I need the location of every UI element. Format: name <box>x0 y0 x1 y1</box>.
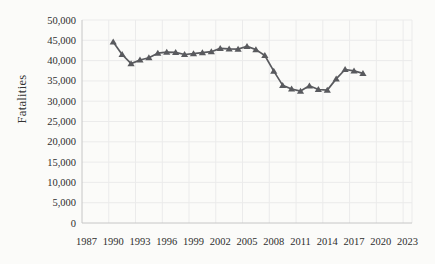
y-tick-label: 50,000 <box>47 15 76 26</box>
y-tick-label: 45,000 <box>47 35 76 46</box>
y-axis-title: Fatalities <box>15 75 30 124</box>
y-tick-label: 5,000 <box>52 197 76 208</box>
x-tick-label: 2017 <box>344 236 365 247</box>
y-tick-label: 20,000 <box>47 136 76 147</box>
y-tick-label: 10,000 <box>47 177 76 188</box>
series-marker-triangle <box>306 82 313 88</box>
x-tick-label: 2005 <box>237 236 258 247</box>
y-tick-label: 40,000 <box>47 55 76 66</box>
x-tick-label: 1990 <box>103 236 124 247</box>
x-tick-label: 1999 <box>183 236 204 247</box>
series-marker-triangle <box>110 39 117 45</box>
x-tick-label: 1996 <box>156 236 177 247</box>
x-tick-label: 2002 <box>210 236 231 247</box>
x-tick-label: 2008 <box>263 236 284 247</box>
x-tick-label: 2020 <box>370 236 391 247</box>
y-tick-label: 35,000 <box>47 75 76 86</box>
x-tick-label: 2023 <box>397 236 418 247</box>
fatalities-line-chart: Fatalities 05,00010,00015,00020,00025,00… <box>0 0 435 248</box>
x-tick-label: 2014 <box>317 236 339 247</box>
y-tick-label: 15,000 <box>47 157 76 168</box>
x-tick-label: 2011 <box>290 236 311 247</box>
x-tick-label: 1993 <box>129 236 150 247</box>
x-tick-label: 1987 <box>76 236 97 247</box>
series-marker-triangle <box>243 43 250 49</box>
series-marker-triangle <box>279 82 286 88</box>
plot-area: 05,00010,00015,00020,00025,00030,00035,0… <box>0 0 435 248</box>
y-tick-label: 30,000 <box>47 96 76 107</box>
y-tick-label: 25,000 <box>47 116 76 127</box>
series-marker-triangle <box>270 68 277 74</box>
y-tick-label: 0 <box>71 218 76 229</box>
bottom-divider-rule <box>2 249 433 253</box>
